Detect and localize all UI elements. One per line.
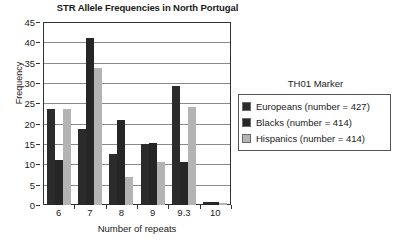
bar (94, 68, 102, 205)
x-axis-tick-label: 10 (200, 207, 231, 218)
bar (188, 107, 196, 205)
y-axis-ticklabels: 051015202530354045 (0, 22, 40, 205)
legend-item-label: Hispanics (number = 414) (256, 133, 365, 144)
bar (149, 143, 157, 205)
x-axis-tick-label: 7 (74, 207, 105, 218)
y-axis-tickmark (36, 124, 40, 125)
y-axis-tick-label: 25 (24, 98, 35, 109)
y-axis-tickmark (36, 22, 40, 23)
y-axis-tick-label: 45 (24, 17, 35, 28)
y-axis-tickmark (36, 42, 40, 43)
bars-layer (43, 22, 231, 205)
bar (180, 162, 188, 205)
legend-item[interactable]: Blacks (number = 414) (242, 114, 388, 130)
legend-swatch-icon (242, 134, 251, 143)
x-axis-tick-label: 8 (106, 207, 137, 218)
chart-title: STR Allele Frequencies in North Portugal (40, 2, 255, 13)
x-axis-tick-label: 9 (137, 207, 168, 218)
y-axis-tick-label: 35 (24, 57, 35, 68)
y-axis-tickmark (36, 83, 40, 84)
bar (86, 38, 94, 205)
x-axis-ticklabels: 67899.310 (43, 207, 231, 218)
legend-item-label: Blacks (number = 414) (256, 117, 352, 128)
legend-swatch-icon (242, 102, 251, 111)
legend: Europeans (number = 427)Blacks (number =… (238, 94, 391, 151)
bar (47, 109, 55, 205)
bar (78, 129, 86, 205)
y-axis-tick-label: 10 (24, 159, 35, 170)
bar (63, 109, 71, 205)
y-axis-tickmark (36, 63, 40, 64)
bar-group (168, 22, 199, 205)
bar (172, 86, 180, 205)
y-axis-tickmark (36, 103, 40, 104)
x-axis-tick-label: 6 (43, 207, 74, 218)
legend-title: TH01 Marker (243, 78, 388, 89)
y-axis-tickmark (36, 164, 40, 165)
y-axis-tick-label: 20 (24, 118, 35, 129)
bar (117, 120, 125, 205)
bar-group (106, 22, 137, 205)
bar (109, 154, 117, 205)
legend-item[interactable]: Europeans (number = 427) (242, 98, 388, 114)
y-axis-tickmark (36, 185, 40, 186)
y-axis-tick-label: 0 (30, 200, 35, 211)
bar (157, 162, 165, 205)
bar-group (200, 22, 231, 205)
legend-swatch-icon (242, 118, 251, 127)
y-axis-tickmark (36, 144, 40, 145)
bar (125, 177, 133, 205)
chart-figure: STR Allele Frequencies in North Portugal… (0, 0, 396, 242)
bar-group (74, 22, 105, 205)
bar (141, 144, 149, 205)
x-axis-tick-label: 9.3 (168, 207, 199, 218)
y-axis-tick-label: 30 (24, 78, 35, 89)
x-axis-tickmark (231, 205, 232, 209)
y-axis-tickmark (36, 205, 40, 206)
bar (55, 160, 63, 205)
legend-item-label: Europeans (number = 427) (256, 101, 370, 112)
legend-item[interactable]: Hispanics (number = 414) (242, 130, 388, 146)
bar-group (43, 22, 74, 205)
y-axis-tick-label: 40 (24, 37, 35, 48)
y-axis-tick-label: 5 (30, 179, 35, 190)
x-axis-title: Number of repeats (43, 223, 231, 234)
y-axis-tick-label: 15 (24, 139, 35, 150)
bar-group (137, 22, 168, 205)
